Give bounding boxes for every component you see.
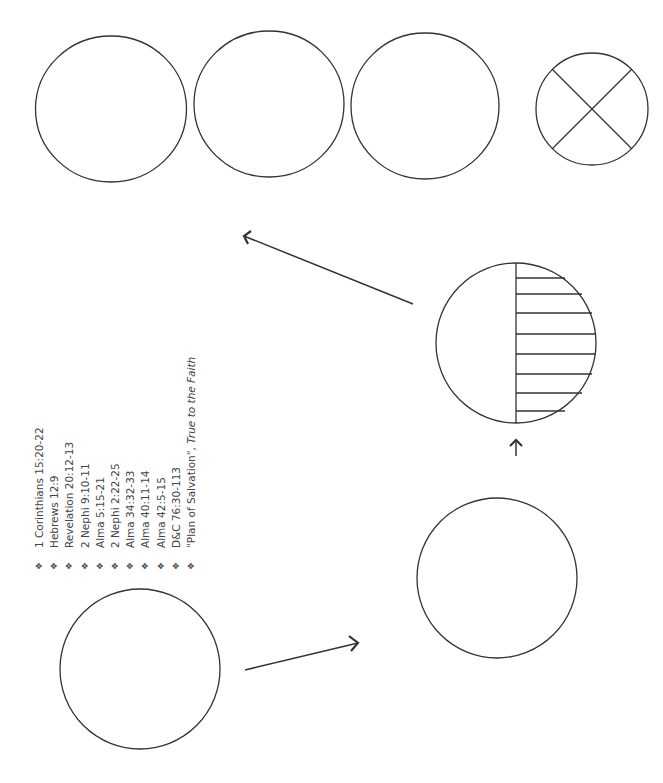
reference-item: ❖Revelation 20:12-13 xyxy=(62,240,77,570)
circle-half-hatched xyxy=(436,263,596,423)
reference-item: ❖Alma 42:5-15 xyxy=(154,240,169,570)
circle-top-3 xyxy=(351,33,499,179)
scripture-reference-list: ❖1 Corinthians 15:20-22 ❖Hebrews 12:9 ❖R… xyxy=(32,240,199,570)
diamond-bullet-icon: ❖ xyxy=(108,548,123,570)
diamond-bullet-icon: ❖ xyxy=(154,548,169,570)
diamond-bullet-icon: ❖ xyxy=(184,548,199,570)
circle-top-2 xyxy=(194,31,344,177)
diamond-bullet-icon: ❖ xyxy=(138,548,153,570)
reference-item: ❖2 Nephi 2:22-25 xyxy=(108,240,123,570)
circle-top-1 xyxy=(36,36,187,182)
diamond-bullet-icon: ❖ xyxy=(93,548,108,570)
reference-item: ❖Alma 34:32-33 xyxy=(123,240,138,570)
arrow-up-to-hatched xyxy=(510,440,522,456)
circle-top-4-x-divided xyxy=(536,53,648,165)
reference-item: ❖D&C 76:30-113 xyxy=(169,240,184,570)
reference-item: ❖2 Nephi 9:10-11 xyxy=(78,240,93,570)
diamond-bullet-icon: ❖ xyxy=(123,548,138,570)
circle-bottom-left xyxy=(60,589,220,749)
reference-item: ❖Alma 5:15-21 xyxy=(93,240,108,570)
reference-item: ❖Alma 40:11-14 xyxy=(138,240,153,570)
arrow-bottom-left-to-right xyxy=(245,636,358,670)
diamond-bullet-icon: ❖ xyxy=(78,548,93,570)
source-title: True to the Faith xyxy=(184,357,199,444)
diamond-bullet-icon: ❖ xyxy=(169,548,184,570)
reference-item: ❖1 Corinthians 15:20-22 xyxy=(32,240,47,570)
circle-bottom-right xyxy=(417,498,577,658)
arrow-hatched-to-top-row xyxy=(244,231,413,304)
diamond-bullet-icon: ❖ xyxy=(47,548,62,570)
diamond-bullet-icon: ❖ xyxy=(62,548,77,570)
reference-item: ❖"Plan of Salvation", True to the Faith xyxy=(184,240,199,570)
diamond-bullet-icon: ❖ xyxy=(32,548,47,570)
reference-item: ❖Hebrews 12:9 xyxy=(47,240,62,570)
